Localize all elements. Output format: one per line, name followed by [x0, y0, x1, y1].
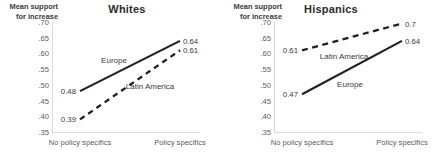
data-label-latin-america-start: 0.61 — [283, 46, 300, 55]
y-tick-35: .35 — [38, 128, 49, 137]
panel-title-whites: Whites — [30, 3, 224, 15]
series-lines-hispanics — [274, 22, 422, 132]
panel-hispanics: Mean support for increase Hispanics .70 … — [224, 0, 448, 154]
y-tick-60: .60 — [38, 49, 49, 58]
y-tick-55: .55 — [38, 65, 49, 74]
plot-area-whites: .70 .65 .60 .55 .50 .45 .40 .35 0.48 0.6… — [52, 22, 200, 132]
x-tick-policy-specifics: Policy specifics — [376, 138, 427, 147]
series-line-latin-america — [302, 24, 402, 51]
data-label-europe-start: 0.47 — [283, 90, 300, 99]
y-tick-65: .65 — [260, 33, 271, 42]
y-tick-60: .60 — [260, 49, 271, 58]
panel-whites: Mean support for increase Whites .70 .65… — [0, 0, 224, 154]
y-tick-55: .55 — [260, 65, 271, 74]
y-tick-70: .70 — [260, 18, 271, 27]
y-tick-50: .50 — [38, 80, 49, 89]
series-label-europe: Europe — [101, 56, 127, 65]
series-label-latin-america: Latin America — [126, 82, 174, 91]
y-tick-40: .40 — [260, 112, 271, 121]
data-label-europe-end: 0.64 — [402, 36, 420, 45]
y-tick-40: .40 — [38, 112, 49, 121]
data-label-europe-end: 0.64 — [180, 36, 198, 45]
two-panel-line-chart: Mean support for increase Whites .70 .65… — [0, 0, 448, 154]
y-tick-35: .35 — [260, 128, 271, 137]
data-label-europe-start: 0.48 — [61, 87, 78, 96]
panel-title-hispanics: Hispanics — [244, 3, 418, 15]
data-label-latin-america-end: 0.61 — [180, 46, 198, 55]
y-tick-70: .70 — [38, 18, 49, 27]
data-label-latin-america-end: 0.7 — [402, 19, 416, 28]
y-tick-45: .45 — [38, 96, 49, 105]
x-tick-policy-specifics: Policy specifics — [154, 138, 205, 147]
y-tick-45: .45 — [260, 96, 271, 105]
data-label-latin-america-start: 0.39 — [61, 115, 78, 124]
x-tick-no-policy-specifics: No policy specifics — [49, 138, 111, 147]
series-label-latin-america: Latin America — [320, 52, 368, 61]
series-label-europe: Europe — [337, 80, 363, 89]
y-tick-50: .50 — [260, 80, 271, 89]
x-tick-no-policy-specifics: No policy specifics — [271, 138, 333, 147]
y-tick-65: .65 — [38, 33, 49, 42]
plot-area-hispanics: .70 .65 .60 .55 .50 .45 .40 .35 0.61 0.7… — [274, 22, 422, 132]
x-axis-line — [274, 132, 422, 133]
x-axis-line — [52, 132, 200, 133]
